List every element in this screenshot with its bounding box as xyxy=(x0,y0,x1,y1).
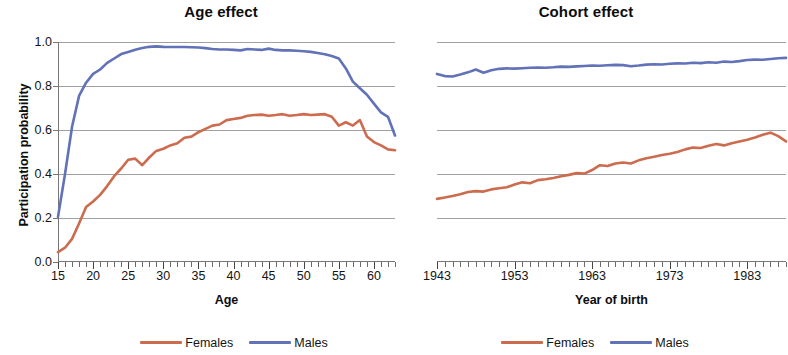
x-tick-mark-minor xyxy=(311,262,312,267)
x-tick-mark-minor xyxy=(476,262,477,267)
x-tick-mark-minor xyxy=(360,262,361,267)
x-tick-mark-minor xyxy=(600,262,601,267)
x-tick-30: 30 xyxy=(156,270,170,283)
x-tick-mark-major xyxy=(747,262,748,269)
line-males xyxy=(437,58,786,77)
legend-item-females[interactable]: Females xyxy=(140,337,233,350)
x-tick-mark-minor xyxy=(262,262,263,267)
x-tick-mark-minor xyxy=(290,262,291,267)
x-tick-mark-major xyxy=(163,262,164,269)
x-tick-mark-minor xyxy=(724,262,725,267)
x-tick-mark-minor xyxy=(248,262,249,267)
x-tick-mark-major xyxy=(128,262,129,269)
x-tick-mark-minor xyxy=(639,262,640,267)
x-tick-mark-minor xyxy=(114,262,115,267)
y-tick-0.6: 0.6 xyxy=(35,124,52,137)
x-tick-mark-major xyxy=(437,262,438,269)
x-tick-mark-minor xyxy=(367,262,368,267)
line-females xyxy=(437,133,786,199)
x-tick-mark-minor xyxy=(615,262,616,267)
x-tick-mark-minor xyxy=(716,262,717,267)
x-tick-mark-minor xyxy=(763,262,764,267)
x-tick-1963: 1963 xyxy=(578,270,606,283)
x-tick-mark-minor xyxy=(701,262,702,267)
x-tick-mark-minor xyxy=(72,262,73,267)
x-tick-1973: 1973 xyxy=(656,270,684,283)
x-tick-mark-minor xyxy=(205,262,206,267)
x-tick-labels: 19431953196319731983 xyxy=(437,262,786,269)
x-tick-mark-minor xyxy=(631,262,632,267)
legend-item-males[interactable]: Males xyxy=(249,337,327,350)
x-tick-55: 55 xyxy=(332,270,346,283)
y-tick-mark xyxy=(53,42,58,43)
x-tick-mark-minor xyxy=(569,262,570,267)
x-tick-mark-minor xyxy=(685,262,686,267)
legend-swatch-females xyxy=(140,341,182,344)
x-tick-mark-minor xyxy=(584,262,585,267)
y-tick-1: 1.0 xyxy=(35,36,52,49)
x-tick-mark-minor xyxy=(297,262,298,267)
x-tick-mark-minor xyxy=(184,262,185,267)
x-tick-mark-major xyxy=(93,262,94,269)
x-tick-mark-minor xyxy=(142,262,143,267)
legend-swatch-males xyxy=(249,341,291,344)
x-tick-mark-minor xyxy=(353,262,354,267)
x-tick-mark-minor xyxy=(693,262,694,267)
x-tick-45: 45 xyxy=(262,270,276,283)
panel-title-age-effect: Age effect xyxy=(0,3,400,20)
x-tick-mark-minor xyxy=(135,262,136,267)
x-tick-mark-major xyxy=(269,262,270,269)
plot-area-cohort-effect: 19431953196319731983 Year of birth xyxy=(437,42,786,262)
x-tick-mark-minor xyxy=(662,262,663,267)
x-tick-mark-minor xyxy=(79,262,80,267)
x-tick-1983: 1983 xyxy=(733,270,761,283)
y-tick-mark xyxy=(53,174,58,175)
x-tick-mark-minor xyxy=(156,262,157,267)
x-tick-40: 40 xyxy=(227,270,241,283)
y-tick-mark xyxy=(53,130,58,131)
legend-item-females[interactable]: Females xyxy=(501,337,594,350)
x-tick-mark-minor xyxy=(121,262,122,267)
x-tick-mark-minor xyxy=(577,262,578,267)
x-tick-mark-minor xyxy=(561,262,562,267)
x-tick-mark-major xyxy=(515,262,516,269)
line-males xyxy=(58,46,395,217)
x-tick-mark-minor xyxy=(522,262,523,267)
x-tick-60: 60 xyxy=(367,270,381,283)
x-tick-20: 20 xyxy=(86,270,100,283)
x-tick-mark-minor xyxy=(388,262,389,267)
x-tick-mark-minor xyxy=(623,262,624,267)
x-tick-mark-minor xyxy=(65,262,66,267)
legend-label: Males xyxy=(294,337,327,350)
x-tick-mark-minor xyxy=(530,262,531,267)
x-tick-mark-minor xyxy=(460,262,461,267)
y-tick-0.4: 0.4 xyxy=(35,168,52,181)
x-tick-mark-minor xyxy=(484,262,485,267)
x-tick-mark-major xyxy=(339,262,340,269)
legend-label: Males xyxy=(655,337,688,350)
y-tick-0.2: 0.2 xyxy=(35,212,52,225)
legend-item-males[interactable]: Males xyxy=(610,337,688,350)
x-tick-mark-minor xyxy=(677,262,678,267)
x-tick-mark-minor xyxy=(283,262,284,267)
x-tick-mark-minor xyxy=(346,262,347,267)
x-tick-mark-minor xyxy=(212,262,213,267)
x-tick-mark-minor xyxy=(491,262,492,267)
y-axis-title: Participation probability xyxy=(17,55,31,255)
x-tick-mark-minor xyxy=(453,262,454,267)
x-tick-mark-major xyxy=(58,262,59,269)
x-tick-mark-minor xyxy=(241,262,242,267)
x-tick-mark-major xyxy=(304,262,305,269)
x-tick-mark-minor xyxy=(332,262,333,267)
x-tick-mark-minor xyxy=(739,262,740,267)
y-tick-0: 0.0 xyxy=(35,256,52,269)
x-tick-mark-minor xyxy=(177,262,178,267)
x-tick-mark-minor xyxy=(654,262,655,267)
x-tick-mark-minor xyxy=(255,262,256,267)
panel-age-effect: Age effect Participation probability 0.0… xyxy=(0,0,400,355)
x-tick-mark-minor xyxy=(325,262,326,267)
x-tick-1953: 1953 xyxy=(501,270,529,283)
panel-cohort-effect: Cohort effect 19431953196319731983 Year … xyxy=(400,0,786,355)
x-tick-mark-minor xyxy=(227,262,228,267)
